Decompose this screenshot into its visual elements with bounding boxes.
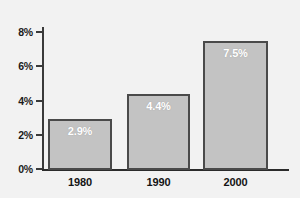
y-tick-mark [36, 31, 43, 33]
y-tick-label: 8% [0, 26, 33, 38]
y-tick-label: 6% [0, 60, 33, 72]
bar-2000 [203, 41, 268, 170]
x-category-label-2000: 2000 [203, 176, 268, 188]
y-tick-mark [36, 65, 43, 67]
y-tick-label-text: 4% [0, 95, 33, 107]
bar-value-label-1980: 2.9% [48, 125, 112, 137]
y-tick-label-text: 8% [0, 26, 33, 38]
bar-value-label-2000: 7.5% [203, 47, 268, 59]
bar-chart: 0%2%4%6%8% 2.9%19804.4%19907.5%2000 [0, 0, 300, 198]
y-tick-label-text: 2% [0, 129, 33, 141]
y-tick-mark [36, 134, 43, 136]
y-tick-label-text: 0% [0, 163, 33, 175]
y-tick-mark [36, 100, 43, 102]
x-category-label-1980: 1980 [48, 176, 112, 188]
bar-value-label-1990: 4.4% [127, 100, 190, 112]
y-tick-label: 0% [0, 163, 33, 175]
x-category-label-1990: 1990 [127, 176, 190, 188]
y-axis-line [42, 27, 44, 170]
y-tick-label: 4% [0, 95, 33, 107]
y-tick-label-text: 6% [0, 60, 33, 72]
y-tick-label: 2% [0, 129, 33, 141]
